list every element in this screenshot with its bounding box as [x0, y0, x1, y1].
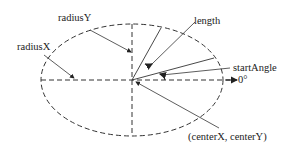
start-radial-line — [132, 58, 214, 80]
label-center: (centerX, centerY) — [188, 131, 267, 143]
length-leader — [152, 22, 195, 64]
label-length: length — [194, 15, 221, 26]
radius-y-leader — [90, 30, 131, 52]
center-leader — [136, 82, 219, 128]
label-radius-y: radiusY — [58, 12, 92, 23]
label-radius-x: radiusX — [17, 41, 51, 52]
label-start-angle: startAngle — [233, 62, 277, 73]
end-radial-line — [132, 28, 161, 80]
radius-x-leader — [44, 55, 74, 78]
arc-diagram: radiusY radiusX length startAngle 0° (ce… — [0, 0, 288, 149]
length-arrow — [145, 64, 152, 65]
label-zero-degree: 0° — [238, 74, 247, 85]
